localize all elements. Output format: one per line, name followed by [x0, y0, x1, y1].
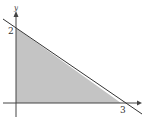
- x-axis-arrow-icon: [137, 101, 142, 106]
- y-axis-label: y: [13, 4, 19, 12]
- graph: y 2 3: [0, 0, 142, 134]
- x-intercept-label: 3: [120, 105, 126, 115]
- y-intercept-label: 2: [8, 26, 14, 36]
